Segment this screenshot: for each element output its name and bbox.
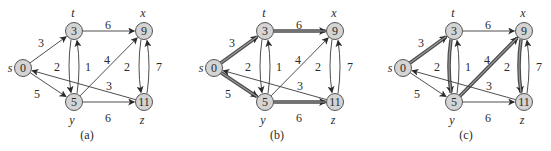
edge-weight-s-t: 3	[38, 36, 44, 50]
edge-weight-t-y: 2	[245, 60, 251, 74]
edge-y-z: 6	[463, 102, 515, 125]
vertex-x: 9x	[516, 6, 533, 40]
vertex-distance-x: 9	[521, 24, 527, 38]
vertex-name-x: x	[139, 6, 146, 20]
edge-t-y: 2	[245, 40, 262, 93]
edge-s-y: 5	[221, 73, 257, 101]
vertex-t: 3t	[257, 6, 274, 40]
vertex-y: 5y	[446, 94, 463, 128]
vertex-t: 3t	[446, 6, 463, 40]
vertex-distance-s: 0	[20, 61, 26, 75]
edge-x-z: 2	[315, 40, 332, 93]
vertex-name-y: y	[259, 113, 266, 127]
edge-z-x: 7	[147, 41, 162, 94]
edge-weight-z-x: 7	[536, 60, 542, 74]
vertex-z: 11z	[327, 94, 344, 128]
edge-weight-z-s: 3	[486, 79, 492, 93]
edge-weight-y-z: 6	[485, 111, 491, 125]
edge-weight-y-z: 6	[296, 111, 302, 125]
edge-weight-s-t: 3	[418, 36, 424, 50]
vertex-name-y: y	[68, 113, 75, 127]
edge-s-y: 5	[410, 73, 446, 101]
vertex-distance-t: 3	[71, 24, 77, 38]
vertex-distance-y: 5	[262, 95, 268, 109]
vertex-x: 9x	[136, 6, 153, 40]
vertex-z: 11z	[136, 94, 153, 128]
vertex-z: 11z	[516, 94, 533, 128]
vertex-s: 0s	[199, 60, 223, 77]
vertex-y: 5y	[66, 94, 83, 128]
vertex-distance-x: 9	[332, 24, 338, 38]
edge-weight-t-y: 2	[434, 60, 440, 74]
edge-z-x: 7	[338, 41, 353, 94]
vertex-t: 3t	[66, 6, 83, 40]
edge-t-x: 6	[83, 18, 135, 32]
edge-weight-s-y: 5	[34, 87, 40, 101]
vertex-distance-z: 11	[329, 95, 341, 109]
panel-c: 35621462730s3t9x5y11z(c)	[388, 6, 542, 142]
edge-weight-x-z: 2	[504, 60, 510, 74]
vertex-name-x: x	[330, 6, 337, 20]
edge-weight-t-x: 6	[485, 18, 491, 32]
edge-t-y: 2	[54, 40, 71, 93]
vertex-name-z: z	[519, 113, 525, 127]
edge-weight-x-z: 2	[315, 60, 321, 74]
vertex-s: 0s	[8, 60, 32, 77]
vertex-distance-t: 3	[451, 24, 457, 38]
vertex-name-y: y	[448, 113, 455, 127]
edge-weight-s-t: 3	[229, 36, 235, 50]
vertex-name-x: x	[519, 6, 526, 20]
vertex-distance-x: 9	[141, 24, 147, 38]
vertex-name-z: z	[330, 113, 336, 127]
edge-z-s: 3	[412, 71, 516, 100]
vertex-distance-y: 5	[451, 95, 457, 109]
vertex-name-s: s	[8, 61, 13, 75]
edge-s-t: 3	[30, 36, 66, 63]
edge-weight-y-t: 1	[85, 60, 91, 74]
edge-weight-x-z: 2	[124, 60, 130, 74]
edge-weight-z-s: 3	[106, 79, 112, 93]
edge-weight-y-t: 1	[276, 60, 282, 74]
edge-weight-y-t: 1	[465, 60, 471, 74]
vertex-name-z: z	[139, 113, 145, 127]
edge-weight-s-y: 5	[414, 87, 420, 101]
shortest-path-figure: 35621462730s3t9x5y11z(a)35621462730s3t9x…	[0, 0, 551, 151]
edge-weight-y-x: 4	[295, 53, 301, 67]
edge-weight-y-z: 6	[105, 111, 111, 125]
edge-s-y: 5	[30, 73, 66, 101]
vertex-name-t: t	[71, 6, 75, 20]
edge-y-z: 6	[274, 102, 326, 125]
vertex-distance-s: 0	[211, 61, 217, 75]
edge-z-x: 7	[527, 41, 542, 94]
vertex-name-s: s	[199, 61, 204, 75]
vertex-name-s: s	[388, 61, 393, 75]
edge-weight-t-y: 2	[54, 60, 60, 74]
edge-weight-t-x: 6	[296, 18, 302, 32]
vertex-s: 0s	[388, 60, 412, 77]
panel-a: 35621462730s3t9x5y11z(a)	[8, 6, 162, 142]
edge-x-z: 2	[124, 40, 141, 93]
edge-weight-y-x: 4	[104, 53, 110, 67]
vertex-distance-z: 11	[518, 95, 530, 109]
edge-weight-y-x: 4	[484, 53, 490, 67]
edge-weight-s-y: 5	[225, 87, 231, 101]
panel-b: 35621462730s3t9x5y11z(b)	[199, 6, 353, 142]
edge-s-t: 3	[410, 36, 446, 63]
figure-canvas: 35621462730s3t9x5y11z(a)35621462730s3t9x…	[0, 0, 551, 151]
edge-t-x: 6	[274, 18, 326, 32]
vertex-distance-t: 3	[262, 24, 268, 38]
panel-caption-a: (a)	[80, 128, 93, 142]
edge-y-z: 6	[83, 102, 135, 125]
panel-caption-c: (c)	[459, 128, 472, 142]
edge-weight-t-x: 6	[105, 18, 111, 32]
vertex-distance-y: 5	[71, 95, 77, 109]
vertex-distance-z: 11	[138, 95, 150, 109]
vertex-name-t: t	[262, 6, 266, 20]
edge-z-s: 3	[32, 71, 136, 100]
edge-t-y: 2	[434, 40, 451, 93]
edge-t-x: 6	[463, 18, 515, 32]
vertex-name-t: t	[451, 6, 455, 20]
edge-weight-z-x: 7	[347, 60, 353, 74]
edge-weight-z-x: 7	[156, 60, 162, 74]
panel-caption-b: (b)	[270, 128, 284, 142]
